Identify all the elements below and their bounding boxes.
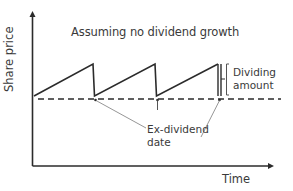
ex-dividend-line1: Ex-dividend [147,123,209,136]
diagram-title: Assuming no dividend growth [71,25,239,39]
x-axis [33,163,275,169]
dividing-amount-bracket [227,64,230,95]
y-axis [30,11,36,166]
share-price-sawtooth [34,64,218,96]
y-axis-arrow-icon [30,11,36,17]
dividend-sawtooth-diagram: Assuming no dividend growth Share price … [0,0,293,191]
ex-dividend-line2: date [147,136,209,149]
x-axis-arrow-icon [268,163,274,169]
dividend-amount-marker [218,64,225,96]
y-axis-label: Share price [2,27,16,92]
dividing-amount-label: Dividing amount [233,66,276,91]
dividing-amount-line2: amount [233,79,276,92]
dividing-amount-line1: Dividing [233,66,276,79]
x-axis-label: Time [222,172,250,186]
ex-dividend-date-label: Ex-dividend date [147,123,209,148]
